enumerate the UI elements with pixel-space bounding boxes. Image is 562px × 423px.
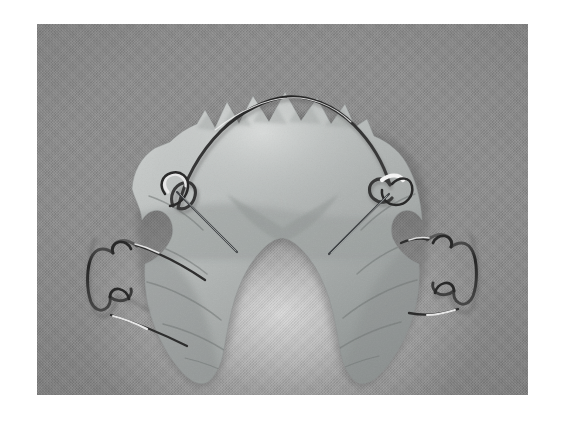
- page-root: Grayscale photograph of an upper Hawley …: [0, 0, 562, 423]
- photo-grain-overlay: [37, 24, 528, 395]
- hawley-retainer: [37, 24, 528, 395]
- photograph: Grayscale photograph of an upper Hawley …: [37, 24, 528, 395]
